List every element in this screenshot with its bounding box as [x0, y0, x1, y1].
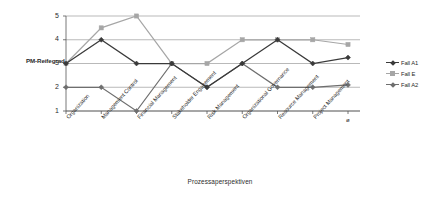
- legend-marker-icon: [386, 70, 399, 77]
- y-tick-label: 4: [47, 35, 59, 42]
- legend-marker-icon: [386, 81, 399, 88]
- legend-item-fall-a1[interactable]: Fall A1: [386, 57, 440, 68]
- line-chart: PM-Reifegrad 54321 OrganizationManagemen…: [0, 0, 440, 198]
- y-tick-label: 3: [47, 59, 59, 66]
- y-tick-label: 1: [47, 107, 59, 114]
- legend-item-fall-a2[interactable]: Fall A2: [386, 79, 440, 90]
- legend-item-fall-e[interactable]: Fall E: [386, 68, 440, 79]
- data-point: [99, 26, 103, 30]
- chart-legend: Fall A1Fall EFall A2: [386, 57, 440, 90]
- y-tick-label: 5: [47, 12, 59, 19]
- data-point: [240, 38, 244, 42]
- legend-label: Fall E: [401, 71, 415, 77]
- data-point: [64, 85, 69, 90]
- data-point: [134, 14, 138, 18]
- x-axis-title: Prozessaperspektiven: [0, 178, 440, 185]
- legend-marker-icon: [386, 59, 399, 66]
- legend-label: Fall A1: [401, 60, 418, 66]
- x-tick-label: ø: [346, 117, 350, 123]
- data-point: [346, 55, 351, 60]
- y-tick-label: 2: [47, 83, 59, 90]
- data-point: [346, 42, 350, 46]
- data-point: [205, 61, 209, 65]
- data-point: [311, 38, 315, 42]
- legend-label: Fall A2: [401, 82, 418, 88]
